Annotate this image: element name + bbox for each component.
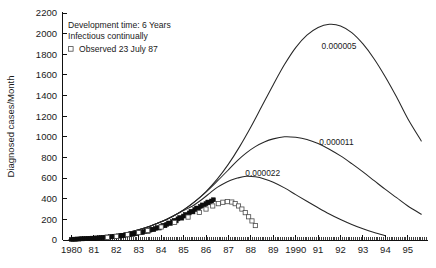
- legend-line-infectious: Infectious continually: [68, 31, 148, 41]
- observed-point-open: [186, 215, 190, 219]
- observed-point-open: [253, 223, 257, 227]
- observed-point-open: [250, 219, 254, 223]
- observed-point-open: [137, 230, 141, 234]
- curve-label-0.000011: 0.000011: [319, 137, 354, 147]
- curve-0.000005: [69, 24, 421, 239]
- observed-point-open: [243, 211, 247, 215]
- x-tick-label-1983: 83: [133, 244, 144, 255]
- legend-line-development-time: Development time: 6 Years: [68, 20, 171, 30]
- observed-point-open: [204, 207, 208, 211]
- y-tick-label-1800: 1800: [36, 49, 57, 60]
- observed-point-open: [125, 233, 129, 237]
- x-tick-label-1990: 1990: [285, 244, 306, 255]
- curve-0.000022: [69, 176, 385, 239]
- y-tick-label-2000: 2000: [36, 28, 57, 39]
- x-tick-label-1992: 92: [335, 244, 346, 255]
- curve-labels-group: 0.0000050.0000110.000022: [245, 41, 357, 178]
- curve-label-0.000022: 0.000022: [245, 168, 280, 178]
- x-tick-label-1994: 94: [380, 244, 391, 255]
- y-tick-label-200: 200: [41, 214, 57, 225]
- observed-point-open: [216, 202, 220, 206]
- observed-point-open: [211, 204, 215, 208]
- open-square-marker-icon: [69, 47, 74, 52]
- observed-point-open: [114, 234, 118, 238]
- x-tick-label-1982: 82: [111, 244, 122, 255]
- y-tick-label-1200: 1200: [36, 111, 57, 122]
- legend-group: Development time: 6 YearsInfectious cont…: [68, 20, 171, 54]
- x-tick-label-1993: 93: [358, 244, 369, 255]
- observed-point-open: [247, 215, 251, 219]
- y-tick-label-800: 800: [41, 152, 57, 163]
- observed-point-open: [197, 210, 201, 214]
- x-tick-label-1980: 1980: [61, 244, 82, 255]
- y-tick-label-600: 600: [41, 172, 57, 183]
- observed-point-open: [105, 235, 109, 239]
- y-tick-label-1600: 1600: [36, 69, 57, 80]
- observed-point-open: [221, 200, 225, 204]
- y-tick-label-2200: 2200: [36, 7, 57, 18]
- x-tick-label-1988: 88: [246, 244, 257, 255]
- x-tick-label-1991: 91: [313, 244, 324, 255]
- x-tick-label-1995: 95: [403, 244, 414, 255]
- curve-0.000011: [69, 137, 421, 239]
- x-tick-label-1981: 81: [89, 244, 100, 255]
- x-tick-label-1985: 85: [178, 244, 189, 255]
- y-tick-label-1000: 1000: [36, 131, 57, 142]
- y-axis-title-group: Diagnosed cases/Month: [5, 76, 16, 178]
- observed-point-filled: [211, 198, 215, 202]
- x-tick-label-1984: 84: [156, 244, 167, 255]
- observed-point-open: [159, 225, 163, 229]
- y-tick-label-0: 0: [52, 234, 57, 245]
- y-tick-label-1400: 1400: [36, 90, 57, 101]
- observed-point-open: [146, 228, 150, 232]
- x-tick-label-1987: 87: [223, 244, 234, 255]
- x-tick-label-1986: 86: [201, 244, 212, 255]
- chart-figure: 0200400600800100012001400160018002000220…: [0, 0, 436, 268]
- y-tick-label-400: 400: [41, 193, 57, 204]
- data-curves-group: [69, 24, 421, 239]
- observed-points-group: [69, 198, 257, 242]
- chart-canvas: 0200400600800100012001400160018002000220…: [0, 0, 436, 268]
- x-tick-label-1989: 89: [268, 244, 279, 255]
- observed-point-open: [173, 220, 177, 224]
- curve-label-0.000005: 0.000005: [321, 41, 356, 51]
- legend-line-observed: Observed 23 July 87: [79, 44, 158, 54]
- observed-point-open: [225, 200, 229, 204]
- y-axis-title: Diagnosed cases/Month: [5, 76, 16, 178]
